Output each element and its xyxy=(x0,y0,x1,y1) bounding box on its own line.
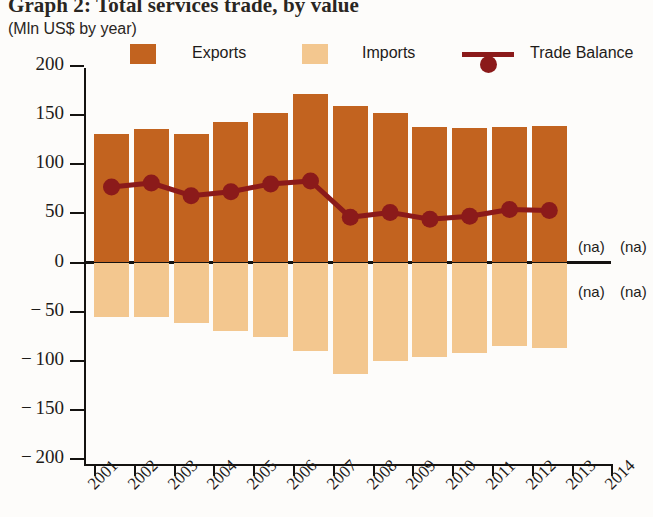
x-axis-label: 2006 xyxy=(283,456,321,494)
y-axis-label: − 200 xyxy=(2,446,64,468)
y-axis-tick xyxy=(70,163,84,165)
bar-imports-2003 xyxy=(174,263,209,324)
x-axis-label: 2013 xyxy=(562,456,600,494)
y-axis-tick xyxy=(70,114,84,116)
bar-imports-2010 xyxy=(452,263,487,353)
bar-imports-2007 xyxy=(333,263,368,375)
y-axis-tick xyxy=(70,360,84,362)
bar-imports-2004 xyxy=(213,263,248,332)
chart-legend: ExportsImportsTrade Balance xyxy=(0,42,653,66)
bar-exports-2012 xyxy=(532,126,567,262)
bar-imports-2011 xyxy=(492,263,527,346)
x-axis-label: 2014 xyxy=(601,456,639,494)
na-label-3: (na) xyxy=(620,283,647,300)
bar-imports-2008 xyxy=(373,263,408,361)
bar-imports-2009 xyxy=(412,263,447,357)
bar-exports-2003 xyxy=(174,134,209,263)
y-axis-label: 200 xyxy=(2,53,64,75)
y-axis-tick xyxy=(70,262,84,264)
y-axis-label: 50 xyxy=(2,200,64,222)
x-axis-label: 2004 xyxy=(203,456,241,494)
bar-exports-2008 xyxy=(373,113,408,262)
legend-swatch-icon xyxy=(302,44,328,64)
y-axis-tick xyxy=(70,311,84,313)
x-axis-label: 2007 xyxy=(323,456,361,494)
bar-exports-2007 xyxy=(333,106,368,262)
legend-line-icon xyxy=(462,52,514,57)
bar-exports-2002 xyxy=(134,129,169,263)
bar-exports-2005 xyxy=(253,113,288,262)
bar-imports-2006 xyxy=(293,263,328,351)
legend-label: Exports xyxy=(192,44,246,62)
y-axis-label: 100 xyxy=(2,151,64,173)
na-label-1: (na) xyxy=(620,238,647,255)
x-axis-label: 2010 xyxy=(442,456,480,494)
legend-label: Trade Balance xyxy=(530,44,633,62)
y-axis-label: − 100 xyxy=(2,348,64,370)
y-axis-label: 0 xyxy=(2,250,64,272)
x-axis-label: 2009 xyxy=(402,456,440,494)
bar-exports-2001 xyxy=(94,134,129,263)
chart-subtitle: (Mln US$ by year) xyxy=(8,20,137,38)
bar-exports-2011 xyxy=(492,127,527,263)
y-axis-tick xyxy=(70,409,84,411)
y-axis-tick xyxy=(70,458,84,460)
bar-exports-2009 xyxy=(412,127,447,263)
x-axis-label: 2012 xyxy=(522,456,560,494)
legend-label: Imports xyxy=(362,44,415,62)
legend-marker-icon xyxy=(480,56,497,73)
bar-exports-2006 xyxy=(293,94,328,263)
x-axis-label: 2008 xyxy=(363,456,401,494)
y-axis-tick xyxy=(70,212,84,214)
y-axis-label: − 50 xyxy=(2,299,64,321)
bar-exports-2004 xyxy=(213,122,248,262)
y-axis-label: 150 xyxy=(2,102,64,124)
bar-imports-2005 xyxy=(253,263,288,338)
bar-imports-2012 xyxy=(532,263,567,348)
x-axis-label: 2011 xyxy=(482,456,520,494)
bar-exports-2010 xyxy=(452,128,487,263)
bar-imports-2002 xyxy=(134,263,169,317)
x-axis-label: 2005 xyxy=(243,456,281,494)
legend-swatch-icon xyxy=(130,44,156,64)
bar-imports-2001 xyxy=(94,263,129,318)
chart-container: Graph 2: Total services trade, by value … xyxy=(0,0,653,517)
y-axis-line xyxy=(84,68,86,466)
y-axis-label: − 150 xyxy=(2,397,64,419)
x-axis-label: 2002 xyxy=(124,456,162,494)
y-axis-tick xyxy=(70,65,84,67)
x-axis-label: 2001 xyxy=(84,456,122,494)
na-label-2: (na) xyxy=(578,283,605,300)
na-label-0: (na) xyxy=(578,238,605,255)
chart-title: Graph 2: Total services trade, by value xyxy=(8,0,359,18)
x-axis-label: 2003 xyxy=(164,456,202,494)
